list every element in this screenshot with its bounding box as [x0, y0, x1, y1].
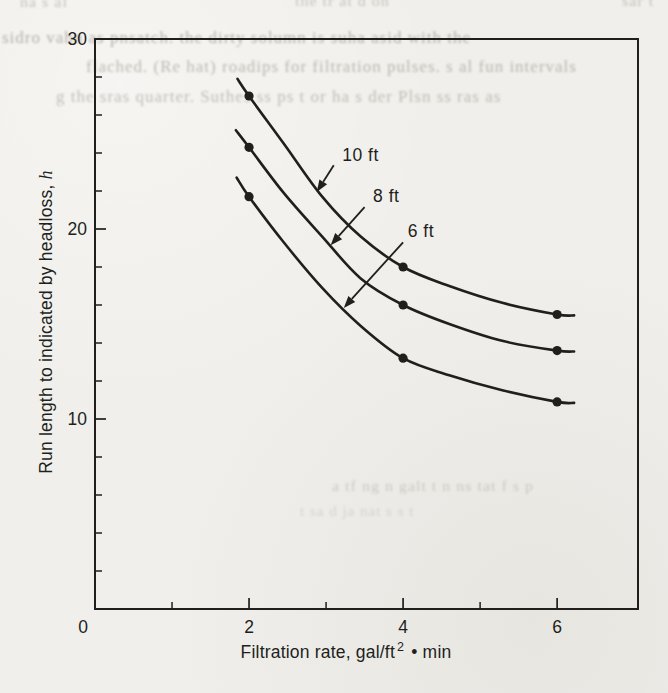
x-axis-title: Filtration rate, gal/ft2 • min — [241, 641, 452, 664]
x-axis-title-suffix: • min — [406, 642, 451, 662]
curve-6ft — [237, 178, 574, 403]
y-axis-title-text: Run length to indicated by headloss, — [36, 179, 56, 473]
y-tick-label: 30 — [68, 29, 88, 49]
y-tick-label: 10 — [68, 409, 88, 429]
headloss-run-length-chart: 024610203010 ft8 ft6 ft — [0, 0, 668, 693]
data-point-8ft-x6 — [553, 346, 562, 355]
x-tick-label: 2 — [244, 617, 254, 637]
data-point-10ft-x2 — [244, 91, 253, 100]
data-point-8ft-x4 — [398, 300, 407, 309]
curve-label-6ft: 6 ft — [408, 221, 434, 241]
x-tick-label: 4 — [398, 617, 408, 637]
data-point-6ft-x4 — [398, 354, 407, 363]
curve-label-arrow-line-10ft — [323, 165, 333, 181]
data-point-6ft-x6 — [553, 397, 562, 406]
y-axis-title-variable: h — [36, 170, 56, 179]
curve-label-10ft: 10 ft — [342, 145, 379, 165]
curve-8ft — [236, 130, 574, 351]
data-point-6ft-x2 — [244, 192, 253, 201]
y-tick-label: 20 — [68, 219, 88, 239]
scanned-book-page: na s althe tr at d onsar tsidro vahn as … — [0, 0, 668, 693]
data-point-10ft-x6 — [553, 310, 562, 319]
x-tick-label: 0 — [78, 617, 88, 637]
data-point-10ft-x4 — [398, 262, 407, 271]
data-point-8ft-x2 — [244, 143, 253, 152]
curve-label-arrow-line-8ft — [339, 207, 365, 236]
y-axis-title: Run length to indicated by headloss, h — [36, 170, 57, 474]
x-axis-title-text: Filtration rate, gal/ft — [241, 642, 395, 662]
x-axis-title-superscript: 2 — [397, 640, 404, 654]
curve-label-arrowhead-10ft — [317, 179, 327, 192]
curve-label-8ft: 8 ft — [373, 186, 399, 206]
plot-frame — [95, 39, 638, 609]
x-tick-label: 6 — [552, 617, 562, 637]
